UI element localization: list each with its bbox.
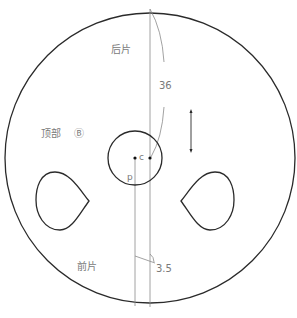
point-c-dot (133, 156, 136, 159)
pattern-diagram (0, 0, 297, 318)
grain-arrow-icon (190, 109, 193, 153)
point-c-label: c (139, 153, 144, 162)
piece-marker-label: Ⓑ (74, 129, 84, 139)
left-armhole (36, 172, 89, 230)
point-center-dot (148, 156, 151, 159)
back-piece-label: 后片 (111, 45, 131, 55)
dimension-3-5-label: 3.5 (156, 264, 172, 274)
dimension-36-label: 36 (159, 81, 172, 91)
dimension-arc-lower (151, 107, 164, 157)
dimension-3-5-marker (135, 254, 155, 263)
dimension-arc-upper (150, 9, 164, 62)
right-armhole (181, 172, 234, 230)
top-piece-label: 顶部 (41, 129, 61, 139)
front-piece-label: 前片 (77, 262, 97, 272)
point-p-label: p (127, 173, 133, 182)
